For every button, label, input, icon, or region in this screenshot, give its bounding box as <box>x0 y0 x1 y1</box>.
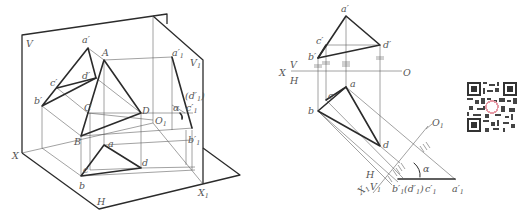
alpha-arc <box>180 113 182 119</box>
ortho-v-triangle <box>318 16 380 58</box>
label-b1-prime: b′1 <box>188 134 200 147</box>
qr-code[interactable] <box>467 82 517 132</box>
label-D: D <box>141 105 150 116</box>
pictorial-view: V a′ A d′ c′ b′ C D B X a d c b H O1 a′1… <box>11 14 240 209</box>
ortho-label-b: b <box>308 105 314 116</box>
label-x-axis: X <box>11 150 20 161</box>
construction-lines <box>22 16 203 184</box>
ortho-label-h2: H <box>365 169 375 180</box>
label-h-plane: H <box>96 196 106 207</box>
label-a1-prime: a′1 <box>172 47 184 60</box>
ortho-label-v: V <box>290 59 298 70</box>
ortho-label-a-prime: a′ <box>341 3 350 14</box>
label-a-prime: a′ <box>82 34 91 45</box>
ortho-label-b-prime: b′ <box>308 51 317 62</box>
label-b-prime: b′ <box>34 95 43 106</box>
label-c: c <box>83 164 89 175</box>
v-plane-frame <box>22 14 167 153</box>
ortho-label-c: c <box>328 90 334 101</box>
ortho-label-alpha: α <box>423 163 430 174</box>
qr-center-logo <box>486 101 498 113</box>
ortho-label-h: H <box>289 75 299 86</box>
ortho-label-d: d <box>383 139 389 150</box>
ortho-labels: a′ c′ d′ b′ X V H O a c b d O1 α H X1 V1… <box>278 3 464 199</box>
label-c-prime: c′ <box>50 77 58 88</box>
ortho-label-x: X <box>278 67 287 78</box>
ortho-label-d1-prime: (d′1) <box>404 183 424 196</box>
label-d: d <box>142 157 148 168</box>
label-alpha: α <box>173 102 180 113</box>
label-d-prime: d′ <box>82 70 91 81</box>
label-C: C <box>84 102 92 113</box>
ortho-label-v1: V1 <box>370 181 381 194</box>
ortho-label-b1-prime: b′1 <box>392 183 404 196</box>
label-a: a <box>108 138 114 149</box>
ortho-label-c1-prime: c′1 <box>425 183 437 196</box>
orthographic-view: a′ c′ d′ b′ X V H O a c b d O1 α H X1 V1… <box>278 3 464 199</box>
label-b: b <box>79 180 85 191</box>
projection-figure: V a′ A d′ c′ b′ C D B X a d c b H O1 a′1… <box>0 0 523 220</box>
alpha-arc-ortho <box>414 163 420 177</box>
ortho-label-o1: O1 <box>432 117 444 130</box>
label-o1: O1 <box>155 115 167 128</box>
label-v1-plane: V1 <box>190 57 201 70</box>
ortho-label-a: a <box>350 78 356 89</box>
ortho-label-a1-prime: a′1 <box>452 183 464 196</box>
ortho-label-c-prime: c′ <box>316 35 324 46</box>
label-A: A <box>101 47 109 58</box>
ortho-label-o: O <box>403 67 411 78</box>
label-B: B <box>73 136 81 147</box>
label-v-plane: V <box>26 38 34 49</box>
label-x1-axis: X1 <box>197 187 209 200</box>
ortho-label-d-prime: d′ <box>383 39 392 50</box>
